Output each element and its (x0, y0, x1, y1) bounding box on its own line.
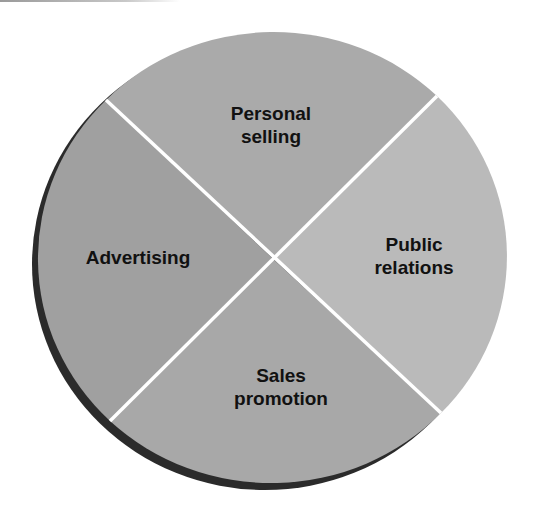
label-public-relations-line2: relations (374, 256, 453, 279)
label-public-relations-line1: Public (374, 233, 453, 256)
pie-diagram (0, 0, 535, 521)
label-personal-selling-line2: selling (231, 125, 311, 148)
label-advertising: Advertising (86, 246, 191, 269)
label-personal-selling: Personal selling (231, 102, 311, 148)
label-public-relations: Public relations (374, 233, 453, 279)
label-personal-selling-line1: Personal (231, 102, 311, 125)
label-sales-promotion: Sales promotion (234, 364, 328, 410)
label-sales-promotion-line1: Sales (234, 364, 328, 387)
label-sales-promotion-line2: promotion (234, 387, 328, 410)
label-advertising-line1: Advertising (86, 246, 191, 269)
